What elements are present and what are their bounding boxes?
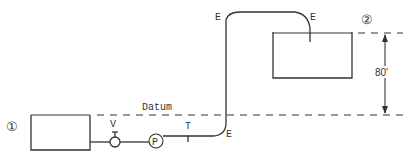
datum-label: Datum xyxy=(142,102,172,113)
valve-icon xyxy=(110,132,120,147)
pump-label: P xyxy=(152,137,158,148)
diagram-svg: ① Datum V P T E E E ② 80' xyxy=(0,0,403,156)
reservoir-2-marker: ② xyxy=(361,13,373,28)
elevation-difference-label: 80' xyxy=(375,67,388,78)
elbow-label-top-right: E xyxy=(310,12,316,23)
pipeline-diagram: ① Datum V P T E E E ② 80' xyxy=(0,0,403,156)
tee-label: T xyxy=(185,121,191,132)
valve-label: V xyxy=(110,119,116,130)
discharge-pipe xyxy=(163,12,310,136)
elbow-label-bottom: E xyxy=(226,129,232,140)
reservoir-1 xyxy=(31,115,90,150)
elbow-label-top-left: E xyxy=(215,12,221,23)
reservoir-2 xyxy=(273,32,352,78)
reservoir-1-marker: ① xyxy=(6,120,18,135)
